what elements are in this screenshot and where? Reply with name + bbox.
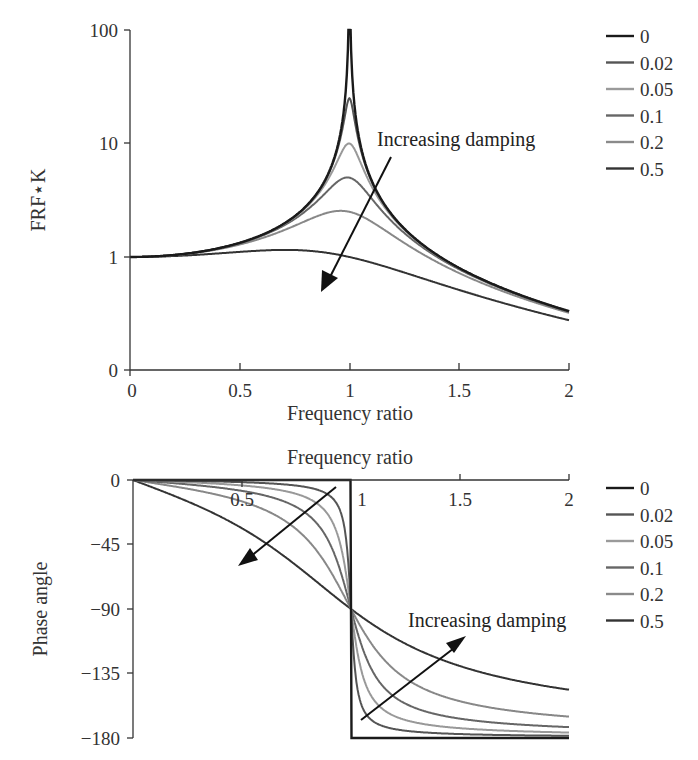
top-x-tick-label: 1: [345, 380, 355, 401]
top-damping-arrow-icon: [321, 157, 391, 292]
top-y-ticks: [124, 30, 130, 370]
top-annotation: Increasing damping: [377, 128, 535, 151]
bottom-x-tick-label: 1: [357, 489, 367, 510]
bottom-y-tick-label: −180: [81, 728, 120, 749]
legend-label: 0.1: [640, 558, 664, 579]
top-y-tick-label: 10: [99, 133, 118, 154]
curve-damping-0: [130, 30, 569, 311]
legend-label: 0.5: [640, 611, 664, 632]
legend-label: 0.2: [640, 132, 664, 153]
curve-damping-0.2: [130, 211, 569, 313]
legend-label: 0.5: [640, 159, 664, 180]
curve-damping-0.05: [130, 143, 569, 311]
top-x-axis-title: Frequency ratio: [287, 402, 413, 425]
bottom-y-ticks: [127, 480, 133, 738]
legend-top: 00.020.050.10.20.5: [606, 26, 673, 180]
top-y-axis-title: FRF⋆K: [27, 168, 49, 232]
top-y-tick-label: 0: [109, 360, 119, 381]
legend-label: 0: [640, 478, 650, 499]
bottom-y-tick-label: −135: [81, 663, 120, 684]
top-y-tick-label: 1: [109, 247, 119, 268]
top-y-tick-label: 100: [90, 20, 119, 41]
legend-label: 0.1: [640, 106, 664, 127]
bottom-x-tick-label: 2: [564, 489, 574, 510]
legend-bottom: 00.020.050.10.20.5: [606, 478, 673, 632]
bottom-y-tick-label: −90: [90, 599, 120, 620]
legend-label: 0.05: [640, 531, 673, 552]
bottom-x-axis-title: Frequency ratio: [287, 446, 413, 469]
top-chart: 100 10 1 0 0 0.5 1 1.5 2 Frequency ratio…: [27, 20, 574, 425]
figure: 100 10 1 0 0 0.5 1 1.5 2 Frequency ratio…: [0, 0, 698, 760]
bottom-x-tick-label: 1.5: [448, 489, 472, 510]
bottom-chart: Frequency ratio 0 −45 −90 −135 −180 0.5 …: [29, 446, 574, 749]
bottom-y-axis-title: Phase angle: [29, 561, 52, 656]
legend-label: 0.02: [640, 505, 673, 526]
legend-label: 0.05: [640, 79, 673, 100]
bottom-y-tick-label: 0: [111, 470, 121, 491]
top-curves: [130, 30, 569, 320]
legend-label: 0: [640, 26, 650, 47]
top-x-tick-label: 0.5: [228, 380, 252, 401]
bottom-x-tick-label: 0.5: [230, 489, 254, 510]
bottom-y-tick-label: −45: [90, 534, 120, 555]
legend-label: 0.2: [640, 584, 664, 605]
top-x-tick-label: 0: [127, 380, 137, 401]
top-x-tick-label: 2: [564, 380, 574, 401]
legend-label: 0.02: [640, 53, 673, 74]
top-x-tick-label: 1.5: [447, 380, 471, 401]
curve-damping-0.5: [130, 250, 569, 320]
bottom-annotation: Increasing damping: [408, 609, 566, 632]
